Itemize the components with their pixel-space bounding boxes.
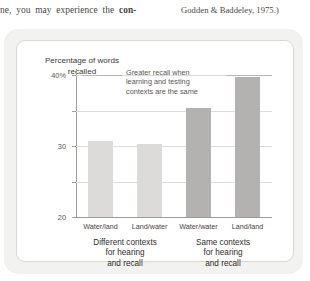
- y-axis-tick: 20: [72, 146, 76, 147]
- chart-annotation: Greater recall when learning and testing…: [126, 68, 222, 96]
- x-axis-category-label: Land/water: [132, 222, 168, 231]
- x-axis-category-label: Land/land: [232, 222, 264, 231]
- y-axis-line: [76, 69, 77, 217]
- group-label-line-2: for hearing: [196, 248, 250, 258]
- body-text-left-column: ne, you may experience the con-: [0, 5, 158, 15]
- group-label-line-1: Different contexts: [93, 238, 157, 248]
- body-text-bold-fragment: con-: [119, 5, 137, 15]
- x-axis-line: [76, 217, 272, 218]
- group-label-line-3: and recall: [93, 259, 157, 269]
- group-label-line-2: for hearing: [93, 248, 157, 258]
- chart-card: Percentage of words recalled 010203040% …: [16, 40, 294, 262]
- annotation-line-2: learning and testing: [126, 77, 222, 86]
- group-label-line-1: Same contexts: [196, 238, 250, 248]
- group-label: Same contextsfor hearingand recall: [196, 238, 250, 269]
- chart-bar: [186, 108, 211, 217]
- y-axis-tick-label: 20: [58, 213, 66, 222]
- annotation-leader-right: [226, 75, 272, 76]
- annotation-line-1: Greater recall when: [126, 68, 222, 77]
- annotation-leader-left: [82, 75, 122, 76]
- body-text-fragment: ne, you may experience the: [0, 5, 119, 15]
- x-axis-category-label: Water/land: [83, 222, 118, 231]
- figure-panel: Percentage of words recalled 010203040% …: [5, 30, 302, 273]
- y-axis-tick: 30: [72, 111, 76, 112]
- book-body-text: ne, you may experience the con- Godden &…: [0, 0, 310, 26]
- y-axis-tick-label: 40%: [51, 71, 66, 80]
- group-label: Different contextsfor hearingand recall: [93, 238, 157, 269]
- figure-citation: Godden & Baddeley, 1975.): [181, 5, 279, 15]
- chart-bar: [235, 77, 260, 217]
- annotation-line-3: contexts are the same: [126, 87, 222, 96]
- y-axis-title: Percentage of words recalled: [33, 56, 131, 77]
- x-axis-category-label: Water/water: [179, 222, 217, 231]
- y-axis-tick: 10: [72, 182, 76, 183]
- y-axis-tick: 0: [72, 217, 76, 218]
- group-label-line-3: and recall: [196, 259, 250, 269]
- plot-area: 010203040% Water/landLand/waterWater/wat…: [76, 75, 272, 217]
- chart-bar: [137, 144, 162, 217]
- y-axis-tick-label: 30: [58, 142, 66, 151]
- y-axis-tick: 40%: [72, 75, 76, 76]
- chart-bar: [88, 141, 113, 217]
